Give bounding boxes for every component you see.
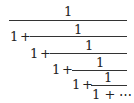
fraction-bar-0 <box>9 20 127 21</box>
numerator-0: 1 <box>64 5 72 18</box>
numerator-4: 1 <box>104 71 112 84</box>
numerator-1: 1 <box>74 23 82 36</box>
term-3: 1 <box>52 63 60 76</box>
term-4: 1 <box>72 78 80 91</box>
fraction-bar-1 <box>30 36 127 37</box>
fraction-bar-2 <box>50 53 127 54</box>
term-1: 1 <box>10 30 18 43</box>
numerator-3: 1 <box>96 56 104 69</box>
tail-term: 1 + ⋯ <box>92 88 132 101</box>
fraction-bar-4 <box>91 85 127 86</box>
fraction-bar-3 <box>72 70 127 71</box>
term-2: 1 <box>30 47 38 60</box>
numerator-2: 1 <box>85 39 93 52</box>
